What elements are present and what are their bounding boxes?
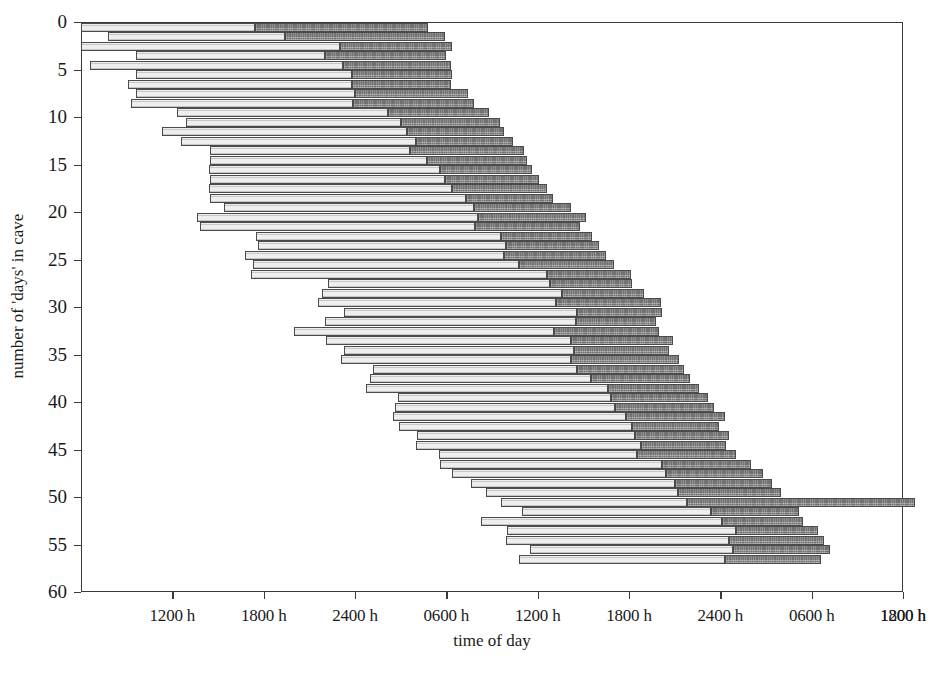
wake-segment [90, 61, 343, 70]
actogram-row [81, 260, 903, 269]
sleep-segment [353, 99, 473, 108]
wake-segment [181, 137, 415, 146]
sleep-segment [729, 536, 823, 545]
wake-segment [440, 460, 662, 469]
wake-segment [370, 374, 591, 383]
sleep-segment [410, 146, 524, 155]
sleep-segment [626, 412, 725, 421]
sleep-segment [571, 355, 679, 364]
sleep-segment [407, 127, 504, 136]
wake-segment [325, 317, 576, 326]
actogram-row [81, 61, 903, 70]
sleep-segment [611, 393, 708, 402]
actogram-row [81, 384, 903, 393]
sleep-segment [501, 232, 592, 241]
sleep-segment [711, 507, 799, 516]
wake-segment [501, 498, 687, 507]
y-tick-mark [74, 355, 81, 356]
sleep-segment [440, 165, 531, 174]
sleep-segment [504, 251, 606, 260]
wake-segment [366, 384, 608, 393]
wake-segment [253, 260, 519, 269]
sleep-segment [388, 108, 488, 117]
actogram-row [81, 365, 903, 374]
actogram-row [81, 460, 903, 469]
sleep-segment [635, 431, 729, 440]
actogram-row [81, 241, 903, 250]
y-tick-label: 45 [48, 439, 67, 461]
actogram-row [81, 165, 903, 174]
x-tick-mark [446, 592, 447, 599]
y-tick-label: 55 [48, 534, 67, 556]
actogram-row [81, 194, 903, 203]
actogram-row [81, 232, 903, 241]
y-tick-mark [74, 260, 81, 261]
sleep-segment [474, 203, 571, 212]
sleep-segment [678, 488, 782, 497]
actogram-row [81, 507, 903, 516]
x-tick-mark [629, 592, 630, 599]
y-tick-label: 50 [48, 486, 67, 508]
sleep-segment [355, 89, 468, 98]
x-tick-label: 2400 h [332, 606, 378, 626]
y-tick-mark [74, 307, 81, 308]
wake-segment [328, 279, 550, 288]
wake-segment [452, 469, 665, 478]
wake-segment [128, 80, 352, 89]
x-tick-mark [264, 592, 265, 599]
sleep-segment [475, 222, 580, 231]
y-tick-label: 60 [48, 581, 67, 603]
y-tick-label: 10 [48, 106, 67, 128]
actogram-row [81, 403, 903, 412]
wake-segment [245, 251, 504, 260]
actogram-row [81, 108, 903, 117]
actogram-row [81, 488, 903, 497]
sleep-segment [506, 241, 599, 250]
sleep-segment [478, 213, 586, 222]
actogram-row [81, 32, 903, 41]
sleep-segment [577, 308, 662, 317]
sleep-segment [733, 545, 830, 554]
wake-segment [344, 346, 574, 355]
y-tick-label: 5 [58, 59, 68, 81]
wake-segment [136, 70, 352, 79]
actogram-row [81, 137, 903, 146]
wake-segment [136, 89, 355, 98]
wake-segment [258, 241, 506, 250]
wake-segment [81, 42, 340, 51]
y-tick-mark [74, 402, 81, 403]
actogram-row [81, 498, 903, 507]
actogram-row [81, 156, 903, 165]
sleep-segment [550, 279, 632, 288]
actogram-row [81, 42, 903, 51]
wake-segment [294, 327, 554, 336]
wake-segment [399, 422, 632, 431]
x-tick-label: 1200 h [515, 606, 561, 626]
actogram-row [81, 545, 903, 554]
wake-segment [507, 526, 735, 535]
actogram-row [81, 336, 903, 345]
y-tick-mark [74, 165, 81, 166]
wake-segment [326, 336, 571, 345]
actogram-row [81, 517, 903, 526]
sleep-segment [608, 384, 699, 393]
y-tick-label: 15 [48, 154, 67, 176]
actogram-row [81, 80, 903, 89]
x-axis-title-text: time of day [453, 631, 530, 650]
actogram-row [81, 175, 903, 184]
sleep-segment [591, 374, 690, 383]
x-axis-title: time of day [81, 631, 903, 651]
y-tick-mark [74, 22, 81, 23]
actogram-row [81, 393, 903, 402]
x-tick-label: 1200 h [150, 606, 196, 626]
sleep-segment [556, 298, 661, 307]
wake-segment [506, 536, 730, 545]
wake-segment [486, 488, 678, 497]
sleep-segment [445, 175, 539, 184]
actogram-row [81, 289, 903, 298]
actogram-row [81, 479, 903, 488]
y-tick-label: 0 [58, 11, 68, 33]
y-tick-mark [74, 545, 81, 546]
wake-segment [200, 222, 476, 231]
wake-segment [210, 156, 426, 165]
